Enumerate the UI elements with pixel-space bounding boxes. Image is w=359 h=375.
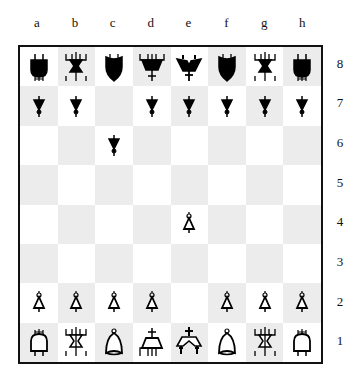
square-a1[interactable]	[20, 323, 58, 362]
square-c4[interactable]	[95, 205, 133, 244]
white-pawn-icon[interactable]	[212, 287, 242, 319]
square-f1[interactable]	[208, 323, 246, 362]
square-b5[interactable]	[58, 165, 96, 204]
white-pawn-icon[interactable]	[174, 208, 204, 240]
white-king-icon[interactable]	[174, 326, 204, 358]
white-pawn-icon[interactable]	[24, 287, 54, 319]
square-g2[interactable]	[246, 283, 284, 322]
square-b4[interactable]	[58, 205, 96, 244]
black-bishop-icon[interactable]	[212, 51, 242, 83]
black-pawn-icon[interactable]	[61, 90, 91, 122]
square-a8[interactable]	[20, 47, 58, 86]
black-rook-icon[interactable]	[287, 51, 317, 83]
square-b7[interactable]	[58, 86, 96, 125]
chess-board[interactable]	[18, 45, 323, 364]
square-f5[interactable]	[208, 165, 246, 204]
white-pawn-icon[interactable]	[99, 287, 129, 319]
square-d2[interactable]	[133, 283, 171, 322]
black-rook-icon[interactable]	[24, 51, 54, 83]
square-g6[interactable]	[246, 126, 284, 165]
square-f6[interactable]	[208, 126, 246, 165]
square-c1[interactable]	[95, 323, 133, 362]
black-knight-icon[interactable]	[61, 51, 91, 83]
square-e2[interactable]	[171, 283, 209, 322]
square-b8[interactable]	[58, 47, 96, 86]
square-e8[interactable]	[171, 47, 209, 86]
black-pawn-icon[interactable]	[250, 90, 280, 122]
square-g5[interactable]	[246, 165, 284, 204]
square-a6[interactable]	[20, 126, 58, 165]
white-pawn-icon[interactable]	[287, 287, 317, 319]
file-label-c: c	[94, 15, 132, 31]
white-bishop-icon[interactable]	[212, 326, 242, 358]
black-pawn-icon[interactable]	[24, 90, 54, 122]
square-c3[interactable]	[95, 244, 133, 283]
square-h4[interactable]	[283, 205, 321, 244]
white-bishop-icon[interactable]	[99, 326, 129, 358]
square-e6[interactable]	[171, 126, 209, 165]
black-pawn-icon[interactable]	[287, 90, 317, 122]
black-pawn-icon[interactable]	[174, 90, 204, 122]
square-c7[interactable]	[95, 86, 133, 125]
square-d5[interactable]	[133, 165, 171, 204]
black-bishop-icon[interactable]	[99, 51, 129, 83]
square-d4[interactable]	[133, 205, 171, 244]
square-d8[interactable]	[133, 47, 171, 86]
white-rook-icon[interactable]	[287, 326, 317, 358]
white-rook-icon[interactable]	[24, 326, 54, 358]
square-f4[interactable]	[208, 205, 246, 244]
square-g7[interactable]	[246, 86, 284, 125]
square-e3[interactable]	[171, 244, 209, 283]
black-queen-icon[interactable]	[137, 51, 167, 83]
white-pawn-icon[interactable]	[61, 287, 91, 319]
square-h7[interactable]	[283, 86, 321, 125]
square-a4[interactable]	[20, 205, 58, 244]
square-d6[interactable]	[133, 126, 171, 165]
square-a5[interactable]	[20, 165, 58, 204]
square-e4[interactable]	[171, 205, 209, 244]
square-d1[interactable]	[133, 323, 171, 362]
black-knight-icon[interactable]	[250, 51, 280, 83]
square-c8[interactable]	[95, 47, 133, 86]
square-f8[interactable]	[208, 47, 246, 86]
black-pawn-icon[interactable]	[137, 90, 167, 122]
square-b6[interactable]	[58, 126, 96, 165]
square-a2[interactable]	[20, 283, 58, 322]
square-e5[interactable]	[171, 165, 209, 204]
square-h5[interactable]	[283, 165, 321, 204]
square-h2[interactable]	[283, 283, 321, 322]
white-queen-icon[interactable]	[137, 326, 167, 358]
square-g1[interactable]	[246, 323, 284, 362]
black-pawn-icon[interactable]	[212, 90, 242, 122]
square-e7[interactable]	[171, 86, 209, 125]
rank-label-3: 3	[333, 254, 347, 270]
square-c6[interactable]	[95, 126, 133, 165]
square-a7[interactable]	[20, 86, 58, 125]
square-f2[interactable]	[208, 283, 246, 322]
square-e1[interactable]	[171, 323, 209, 362]
white-knight-icon[interactable]	[250, 326, 280, 358]
square-h1[interactable]	[283, 323, 321, 362]
square-g3[interactable]	[246, 244, 284, 283]
white-pawn-icon[interactable]	[250, 287, 280, 319]
square-h8[interactable]	[283, 47, 321, 86]
square-g8[interactable]	[246, 47, 284, 86]
square-a3[interactable]	[20, 244, 58, 283]
square-h6[interactable]	[283, 126, 321, 165]
square-c5[interactable]	[95, 165, 133, 204]
square-h3[interactable]	[283, 244, 321, 283]
square-g4[interactable]	[246, 205, 284, 244]
black-king-icon[interactable]	[174, 51, 204, 83]
file-label-f: f	[207, 15, 245, 31]
square-b1[interactable]	[58, 323, 96, 362]
square-d7[interactable]	[133, 86, 171, 125]
square-b3[interactable]	[58, 244, 96, 283]
black-pawn-icon[interactable]	[99, 129, 129, 161]
square-d3[interactable]	[133, 244, 171, 283]
square-f3[interactable]	[208, 244, 246, 283]
white-pawn-icon[interactable]	[137, 287, 167, 319]
square-c2[interactable]	[95, 283, 133, 322]
white-knight-icon[interactable]	[61, 326, 91, 358]
square-b2[interactable]	[58, 283, 96, 322]
square-f7[interactable]	[208, 86, 246, 125]
